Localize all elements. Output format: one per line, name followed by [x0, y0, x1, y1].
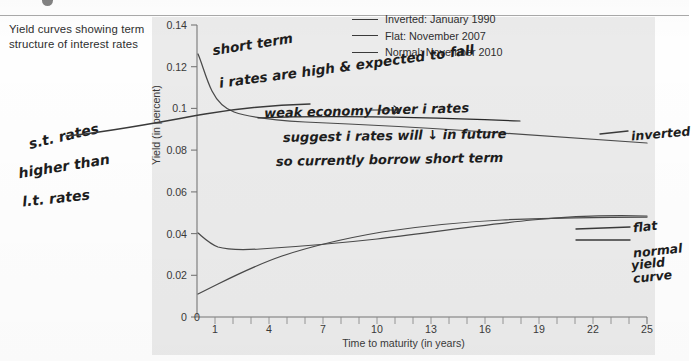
x-tick-4: 4 [254, 323, 284, 335]
legend-label-inverted: Inverted: January 1990 [385, 13, 495, 25]
annotation-higher-than: higher than [17, 151, 110, 181]
legend-line-icon [352, 52, 378, 53]
x-tick-25: 25 [632, 323, 662, 335]
chart-svg [152, 17, 655, 355]
annotation-st-rates: s.t. rates [27, 120, 100, 152]
x-tick-1: 1 [200, 323, 230, 335]
header-divider [0, 15, 689, 16]
legend-label-flat: Flat: November 2007 [385, 30, 486, 42]
y-tick-0: 0 [147, 311, 187, 323]
y-tick-0.12: 0.12 [147, 61, 187, 73]
legend-line-icon [352, 35, 378, 36]
x-tick-13: 13 [416, 323, 446, 335]
x-tick-19: 19 [524, 323, 554, 335]
x-tick-10: 10 [362, 323, 392, 335]
y-tick-0.14: 0.14 [147, 19, 187, 31]
page-marker-icon [42, 0, 53, 6]
y-tick-0.02: 0.02 [147, 269, 187, 281]
curve-flat [198, 216, 647, 250]
x-axis-label: Time to maturity (in years) [152, 337, 655, 349]
legend-item-flat: Flat: November 2007 [352, 28, 503, 45]
y-tick-0.06: 0.06 [147, 186, 187, 198]
x-tick-7: 7 [308, 323, 338, 335]
legend-line-icon [352, 19, 378, 20]
annotation-normal-label-3: curve [632, 267, 672, 286]
annotation-flat-label: flat [632, 218, 658, 235]
x-tick-22: 22 [578, 323, 608, 335]
chart-plot-area: 0.14 0.12 0.1 0.08 0.06 0.04 0.02 0 0 1 … [152, 17, 655, 355]
x-tick-0: 0 [182, 311, 212, 323]
legend-item-inverted: Inverted: January 1990 [352, 11, 503, 28]
y-axis-label: Yield (in percent) [150, 85, 162, 165]
y-axis-ticks [191, 25, 197, 317]
annotation-lt-rates: l.t. rates [21, 186, 90, 209]
y-tick-0.04: 0.04 [147, 228, 187, 240]
figure-caption: Yield curves showing term structure of i… [9, 22, 149, 51]
curve-normal [198, 217, 647, 294]
x-tick-16: 16 [470, 323, 500, 335]
